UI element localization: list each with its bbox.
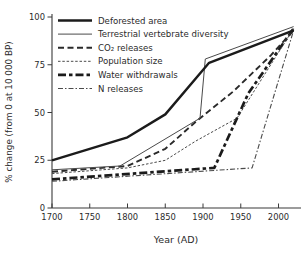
legend-label: Terrestrial vertebrate diversity [97,29,229,39]
legend-label: Water withdrawals [98,70,178,80]
legend-item: Population size [58,56,163,66]
x-axis-label: Year (AD) [153,234,198,245]
y-tick-label: 25 [34,155,45,165]
x-tick-label: 1700 [41,212,62,222]
legend-item: N releases [58,84,143,94]
legend-item: Deforested area [58,16,167,26]
y-tick-label: 0 [40,203,45,213]
legend-label: Deforested area [98,16,167,26]
x-tick-label: 1950 [230,212,251,222]
legend-item: Water withdrawals [58,70,178,80]
legend-label: Population size [98,56,163,66]
x-tick-label: 1800 [117,212,138,222]
legend-item: CO₂ releases [58,43,153,53]
series-line [52,30,294,160]
x-tick-label: 1750 [79,212,100,222]
x-tick-label: 1850 [155,212,176,222]
y-tick-label: 50 [34,108,45,118]
y-tick-label: 100 [29,12,45,22]
line-chart-figure: 17001750180018501900195020000255075100 D… [0,0,306,254]
x-tick-label: 1900 [192,212,213,222]
legend-label: CO₂ releases [98,43,153,53]
series-lines [52,27,294,182]
x-tick-label: 2000 [268,212,289,222]
legend-label: N releases [98,84,143,94]
legend-item: Terrestrial vertebrate diversity [58,29,229,39]
y-axis-label: % change (from 0 at 10 000 BP) [4,41,14,182]
chart: 17001750180018501900195020000255075100 D… [0,0,306,254]
y-tick-label: 75 [34,60,45,70]
